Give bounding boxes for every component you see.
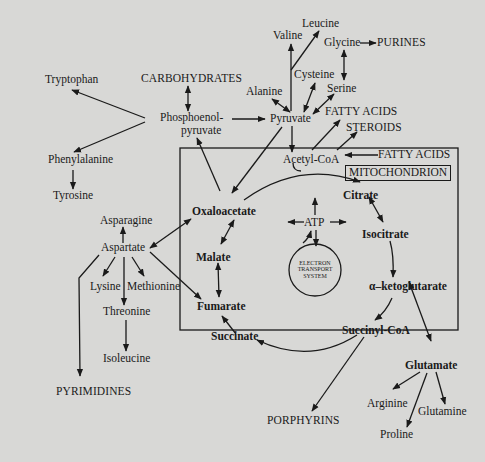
node-glycine: Glycine — [324, 37, 360, 49]
node-malate: Malate — [196, 252, 230, 264]
node-leucine: Leucine — [302, 18, 339, 30]
node-arginine: Arginine — [367, 398, 408, 410]
node-fatty-acids-out: FATTY ACIDS — [325, 106, 397, 118]
node-porphyrins: PORPHYRINS — [267, 415, 340, 427]
node-tryptophan: Tryptophan — [45, 74, 98, 86]
node-atp: ATP — [304, 217, 324, 229]
node-glutamine: Glutamine — [418, 406, 467, 418]
node-phosphoenolpyruvate-line2: pyruvate — [181, 125, 221, 137]
node-lysine: Lysine — [90, 281, 121, 293]
node-acetyl-coa: Acetyl-CoA — [283, 154, 339, 166]
node-purines: PURINES — [377, 37, 426, 49]
node-cysteine: Cysteine — [294, 69, 334, 81]
node-citrate: Citrate — [343, 190, 378, 202]
node-steroids: STEROIDS — [346, 122, 402, 134]
ets-line-3: SYSTEM — [293, 273, 337, 279]
node-phenylalanine: Phenylalanine — [48, 154, 113, 166]
node-isocitrate: Isocitrate — [362, 229, 409, 241]
node-pyruvate: Pyruvate — [270, 113, 311, 125]
node-alpha-ketoglutarate: α–ketoglutarate — [369, 281, 447, 293]
node-asparagine: Asparagine — [100, 215, 152, 227]
mitochondrion-label: MITOCHONDRION — [345, 165, 451, 181]
node-pyrimidines: PYRIMIDINES — [56, 386, 131, 398]
ets-line-2: TRANSPORT — [293, 266, 337, 272]
node-threonine: Threonine — [103, 306, 150, 318]
node-glutamate: Glutamate — [405, 360, 457, 372]
node-fatty-acids-in: FATTY ACIDS — [378, 149, 450, 161]
electron-transport-system-label: ELECTRON TRANSPORT SYSTEM — [293, 260, 337, 279]
node-phosphoenolpyruvate-line1: Phosphoenol- — [160, 112, 223, 124]
node-methionine: Methionine — [127, 281, 180, 293]
node-carbohydrates: CARBOHYDRATES — [141, 73, 242, 85]
node-isoleucine: Isoleucine — [103, 353, 150, 365]
node-fumarate: Fumarate — [197, 301, 246, 313]
metabolic-diagram: Tryptophan CARBOHYDRATES Phosphoenol- py… — [0, 0, 485, 462]
node-serine: Serine — [327, 83, 356, 95]
node-oxaloacetate: Oxaloacetate — [192, 206, 256, 218]
node-valine: Valine — [273, 30, 302, 42]
node-alanine: Alanine — [246, 86, 282, 98]
node-succinate: Succinate — [211, 331, 258, 343]
node-proline: Proline — [380, 429, 413, 441]
node-tyrosine: Tyrosine — [53, 190, 93, 202]
node-succinyl-coa: Succinyl-CoA — [342, 325, 410, 337]
node-aspartate: Aspartate — [101, 242, 145, 254]
